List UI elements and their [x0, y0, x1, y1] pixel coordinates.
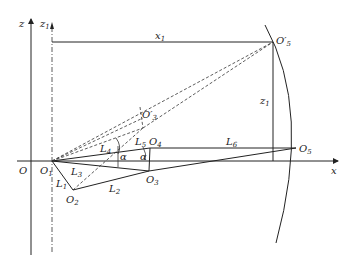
- angle-alpha-2-label: α: [140, 151, 147, 162]
- dashed-O1-O5p-upper: [52, 42, 273, 161]
- z1-axis-label: z1: [39, 18, 50, 31]
- angle-alpha-1-label: α: [120, 151, 127, 162]
- link-O3-O4: [149, 148, 150, 171]
- workspace-arc: [265, 25, 292, 243]
- point-O5-prime-label: O′5: [276, 35, 291, 48]
- dimension-z1-label: z1: [259, 95, 270, 108]
- link-L2-label: L2: [108, 183, 121, 196]
- dashed-O2-O3p: [73, 128, 143, 190]
- link-L5-label: L5: [134, 136, 147, 149]
- origin-label: O: [19, 165, 27, 176]
- point-O5-label: O5: [299, 143, 312, 156]
- point-O2-label: O2: [66, 194, 79, 207]
- dashed-O1-O4-mid: [52, 128, 143, 161]
- z-axis-label: z: [18, 18, 25, 29]
- mechanism-diagram: z z1 x O O1 O2 O3 O4 O5 O′5 O′3 L1 L2 L3…: [0, 0, 358, 271]
- link-L6-label: L6: [225, 136, 238, 149]
- dashed-O3p-O5p: [143, 42, 273, 128]
- point-O4-label: O4: [149, 136, 162, 149]
- z1-axis-arrow-icon: [50, 22, 54, 29]
- dimension-x1-label: x1: [155, 30, 165, 43]
- point-O3-label: O3: [146, 174, 159, 187]
- link-O3-O5: [149, 148, 296, 171]
- point-O1-label: O1: [40, 165, 53, 178]
- point-O3-prime-label: O′3: [142, 109, 157, 122]
- x-axis-label: x: [331, 165, 337, 176]
- link-L3-label: L3: [70, 166, 83, 179]
